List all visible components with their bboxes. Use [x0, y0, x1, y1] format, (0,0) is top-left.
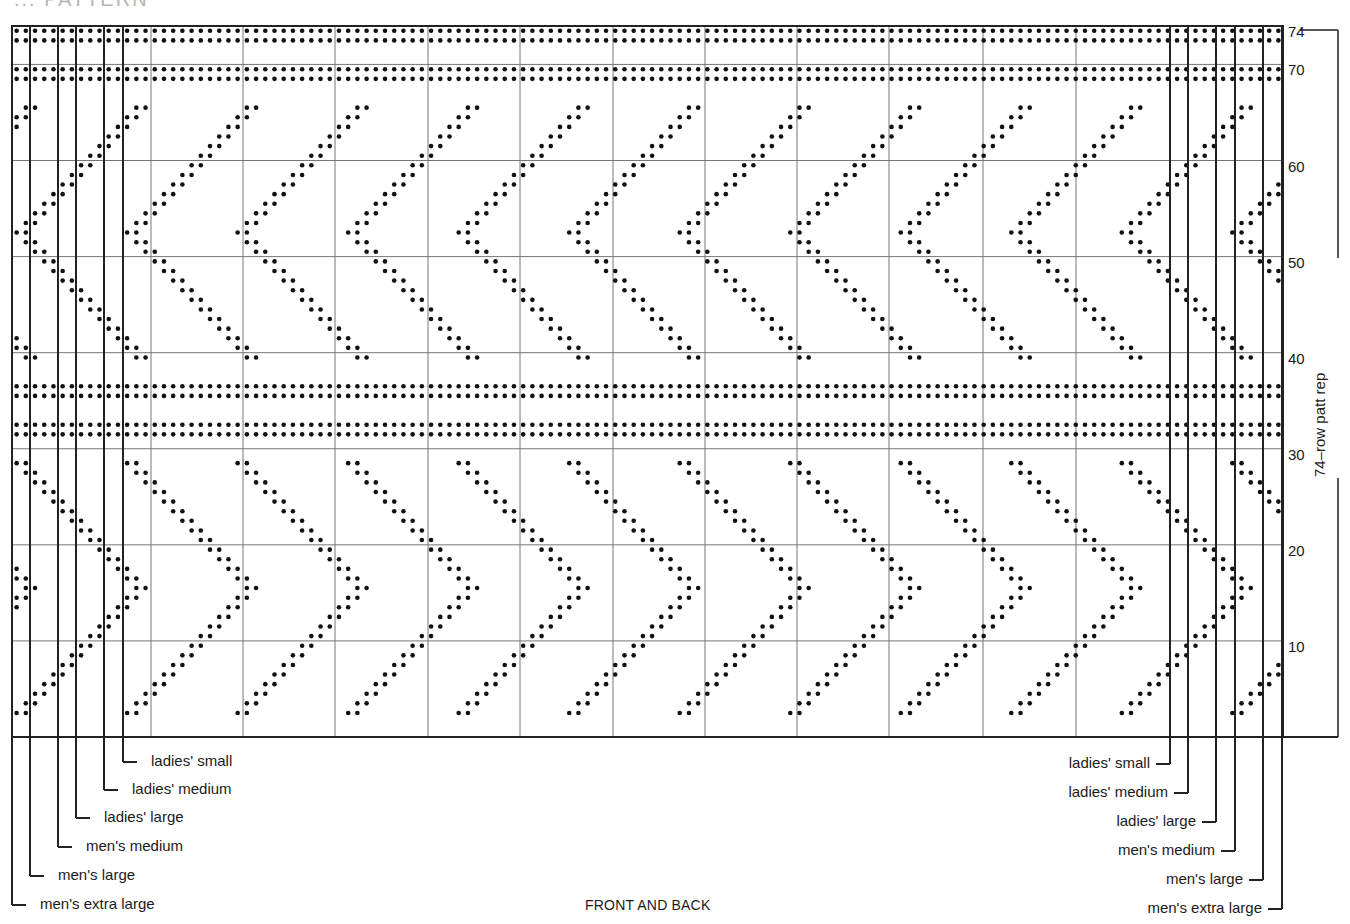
size-label-left: ladies' small: [151, 752, 232, 769]
chart-frame: [12, 26, 1283, 737]
size-label-right: men's large: [1166, 870, 1243, 887]
row-number-30: 30: [1288, 446, 1305, 463]
row-number-20: 20: [1288, 542, 1305, 559]
chart-caption: FRONT AND BACK: [585, 897, 710, 913]
repeat-bracket-gap: [1326, 258, 1350, 478]
row-number-74: 74: [1288, 23, 1305, 40]
size-label-right: men's extra large: [1147, 899, 1262, 916]
size-label-left: men's extra large: [40, 895, 155, 912]
size-label-left: ladies' medium: [132, 780, 232, 797]
size-label-left: men's large: [58, 866, 135, 883]
size-label-right: ladies' large: [1116, 812, 1196, 829]
size-label-right: ladies' medium: [1068, 783, 1168, 800]
row-number-60: 60: [1288, 158, 1305, 175]
size-label-right: men's medium: [1118, 841, 1215, 858]
row-number-70: 70: [1288, 61, 1305, 78]
row-number-50: 50: [1288, 254, 1305, 271]
size-label-left: men's medium: [86, 837, 183, 854]
repeat-label: 74–row patt rep: [1311, 373, 1328, 477]
size-label-right: ladies' small: [1069, 754, 1150, 771]
row-number-40: 40: [1288, 350, 1305, 367]
size-label-left: ladies' large: [104, 808, 184, 825]
row-number-10: 10: [1288, 638, 1305, 655]
